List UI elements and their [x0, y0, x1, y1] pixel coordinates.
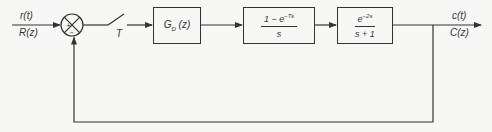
sampler-label: T	[116, 28, 122, 39]
plant-transfer-function: e−2s s + 1	[355, 13, 376, 39]
svg-text:−: −	[70, 29, 74, 36]
controller-label: GD (z)	[164, 19, 191, 32]
sampler-switch	[108, 14, 124, 25]
zoh-transfer-function: 1 − e−Ts s	[261, 13, 297, 39]
input-time-label: r(t)	[20, 10, 33, 21]
plant-block: e−2s s + 1	[337, 7, 393, 44]
input-z-label: R(z)	[19, 27, 38, 38]
zoh-block: 1 − e−Ts s	[243, 7, 315, 44]
output-z-label: C(z)	[450, 27, 469, 38]
controller-block: GD (z)	[153, 7, 201, 44]
output-time-label: c(t)	[452, 10, 466, 21]
